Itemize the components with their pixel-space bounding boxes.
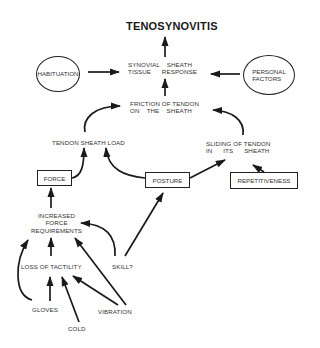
node-cold: COLD (68, 325, 86, 332)
edge-skill-to-increased (81, 223, 115, 256)
node-vibration: VIBRATION (98, 308, 132, 315)
node-habituation: HABITUATION (36, 56, 80, 92)
node-skill: SKILL? (112, 263, 133, 270)
node-loss-of-tactility: LOSS OF TACTILITY (21, 263, 82, 270)
edge-posture-to-load (106, 148, 145, 178)
node-force: FORCE (37, 170, 72, 186)
node-posture: POSTURE (145, 172, 190, 188)
edge-sliding-to-friction (213, 110, 243, 135)
edge-posture-to-sliding (190, 160, 225, 178)
edge-vibration-to-tactility (73, 276, 118, 305)
node-synovial-sheath-response: SYNOVIAL SHEATH TISSUE RESPONSE (128, 61, 197, 76)
edge-skill-to-posture (125, 193, 163, 256)
node-increased-force-requirements: INCREASED FORCE REQUIREMENTS (31, 212, 82, 234)
node-repetitiveness: REPETITIVENESS (230, 172, 298, 189)
edge-force-to-load (72, 148, 84, 178)
node-personal-factors: PERSONAL FACTORS (243, 55, 295, 95)
edge-repetitiveness-to-sliding (253, 165, 264, 172)
node-friction: FRICTION OF TENDON ON THE SHEATH (130, 100, 199, 115)
edge-load-to-friction (85, 106, 120, 132)
node-gloves: GLOVES (32, 306, 58, 313)
node-sliding-of-tendon: SLIDING OF TENDON IN ITS SHEATH (206, 140, 271, 155)
edge-cold-to-tactility (62, 277, 79, 322)
edge-vibration-to-increased (75, 238, 126, 305)
diagram-title: TENOSYNOVITIS (126, 20, 218, 32)
node-tendon-sheath-load: TENDON SHEATH LOAD (52, 139, 125, 146)
